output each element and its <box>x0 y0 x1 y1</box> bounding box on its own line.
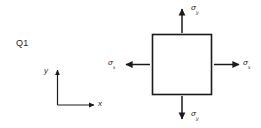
question-label: Q1 <box>16 39 29 48</box>
sigma-y-top-label: σy <box>191 4 199 14</box>
y-axis-label: y <box>44 67 48 75</box>
sigma-subscript: x <box>248 64 251 70</box>
stress-element-square <box>153 35 212 95</box>
sigma-x-right-label: σx <box>243 59 251 69</box>
sigma-subscript: x <box>113 64 116 70</box>
sigma-subscript: y <box>196 115 199 121</box>
sigma-x-left-label: σx <box>108 59 116 69</box>
sigma-subscript: y <box>196 9 199 15</box>
figure-canvas: Q1 σy σx σy σx y x <box>0 0 261 128</box>
sigma-y-bottom-label: σy <box>191 110 199 120</box>
x-axis-label: x <box>98 100 102 108</box>
stress-element-diagram <box>0 0 261 128</box>
